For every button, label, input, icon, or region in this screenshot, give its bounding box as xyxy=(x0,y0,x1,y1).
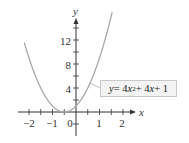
x-axis-arrow-icon xyxy=(130,110,136,115)
x-tick-label-neg1: −1 xyxy=(46,117,58,129)
y-axis-arrow-icon xyxy=(74,18,79,24)
equation-pointer xyxy=(90,83,100,88)
y-tick-label-8: 8 xyxy=(66,59,72,71)
x-tick-label-neg2: −2 xyxy=(23,117,35,129)
y-tick-label-12: 12 xyxy=(60,35,71,47)
eq-part: + 1 xyxy=(154,83,168,94)
x-tick-label-2: 2 xyxy=(119,117,125,129)
y-tick-label-4: 4 xyxy=(66,83,72,95)
x-axis-label: x xyxy=(138,106,144,118)
x-tick-label-0: 0 xyxy=(67,117,73,129)
equation-label: y = 4x2 + 4x + 1 xyxy=(100,80,177,97)
x-tick-label-1: 1 xyxy=(96,117,102,129)
eq-part: + 4 xyxy=(136,83,150,94)
parabola-chart: −2 −1 0 1 2 4 8 12 x y xyxy=(0,0,189,143)
y-axis-label: y xyxy=(72,5,78,17)
eq-part: = 4 xyxy=(114,83,128,94)
